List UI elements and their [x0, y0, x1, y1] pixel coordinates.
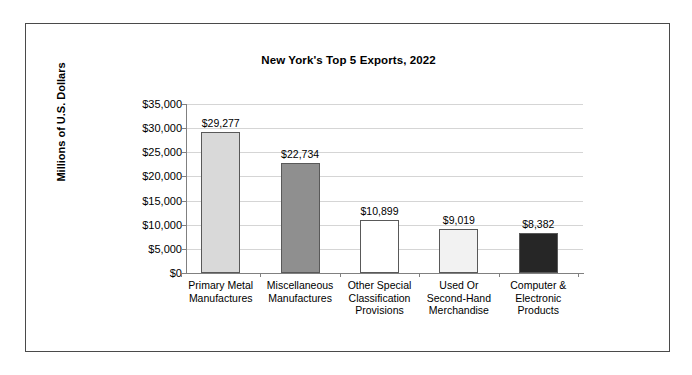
- bar-value-label: $29,277: [202, 117, 240, 129]
- gridline: [186, 104, 583, 105]
- y-axis-tick-label: $10,000: [62, 219, 182, 231]
- bar-value-label: $9,019: [443, 214, 475, 226]
- plot-area: $29,277$22,734$10,899$9,019$8,382: [186, 104, 583, 273]
- category-label-line: Other Special: [334, 279, 426, 292]
- x-axis-tick: [578, 273, 579, 277]
- bar[interactable]: [439, 229, 478, 273]
- x-axis-line: [186, 273, 584, 274]
- x-axis-tick: [260, 273, 261, 277]
- y-axis-tick-label: $5,000: [62, 243, 182, 255]
- bar[interactable]: [519, 233, 558, 273]
- category-label-line: Second-Hand: [413, 292, 505, 305]
- gridline: [186, 201, 583, 202]
- chart-title: New York's Top 5 Exports, 2022: [26, 54, 671, 66]
- x-axis-category-label: Primary MetalManufactures: [175, 279, 267, 304]
- category-label-line: Manufactures: [175, 292, 267, 305]
- category-label-line: Electronic: [492, 292, 584, 305]
- y-axis-tick: [182, 273, 186, 274]
- x-axis-tick: [340, 273, 341, 277]
- category-label-line: Classification: [334, 292, 426, 305]
- y-axis-tick: [182, 128, 186, 129]
- y-axis-tick-label: $25,000: [62, 146, 182, 158]
- y-axis-tick-label: $20,000: [62, 170, 182, 182]
- x-axis-tick: [499, 273, 500, 277]
- y-axis-tick-label: $0: [62, 267, 182, 279]
- y-axis-line: [186, 104, 187, 274]
- y-axis-tick: [182, 152, 186, 153]
- chart-frame: New York's Top 5 Exports, 2022 Millions …: [25, 23, 670, 352]
- x-axis-category-label: Computer &ElectronicProducts: [492, 279, 584, 317]
- bar[interactable]: [360, 220, 399, 273]
- gridline: [186, 128, 583, 129]
- x-axis-tick: [181, 273, 182, 277]
- y-axis-tick: [182, 104, 186, 105]
- y-axis-tick-labels: $35,000$30,000$25,000$20,000$15,000$10,0…: [58, 104, 182, 273]
- category-label-line: Primary Metal: [175, 279, 267, 292]
- gridline: [186, 176, 583, 177]
- bar[interactable]: [281, 163, 320, 273]
- category-label-line: Computer &: [492, 279, 584, 292]
- category-label-line: Used Or: [413, 279, 505, 292]
- category-label-line: Manufactures: [254, 292, 346, 305]
- category-label-line: Products: [492, 304, 584, 317]
- y-axis-tick: [182, 176, 186, 177]
- y-axis-tick-label: $35,000: [62, 98, 182, 110]
- bar-value-label: $10,899: [361, 205, 399, 217]
- category-label-line: Provisions: [334, 304, 426, 317]
- y-axis-tick-label: $15,000: [62, 195, 182, 207]
- gridline: [186, 152, 583, 153]
- bar-value-label: $8,382: [522, 218, 554, 230]
- category-label-line: Merchandise: [413, 304, 505, 317]
- x-axis-tick: [419, 273, 420, 277]
- x-axis-category-label: Used OrSecond-HandMerchandise: [413, 279, 505, 317]
- y-axis-tick: [182, 249, 186, 250]
- y-axis-tick: [182, 225, 186, 226]
- x-axis-category-label: Other SpecialClassificationProvisions: [334, 279, 426, 317]
- bar-value-label: $22,734: [281, 148, 319, 160]
- y-axis-tick: [182, 201, 186, 202]
- bar[interactable]: [201, 132, 240, 273]
- y-axis-tick-label: $30,000: [62, 122, 182, 134]
- x-axis-category-label: MiscellaneousManufactures: [254, 279, 346, 304]
- category-label-line: Miscellaneous: [254, 279, 346, 292]
